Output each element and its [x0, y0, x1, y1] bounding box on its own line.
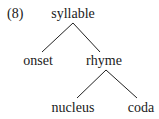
edge-rhyme-coda	[106, 70, 137, 98]
edge-syllable-onset	[42, 23, 73, 52]
edge-rhyme-nucleus	[77, 70, 106, 98]
node-nucleus: nucleus	[52, 100, 95, 116]
node-rhyme: rhyme	[86, 53, 122, 69]
node-syllable: syllable	[51, 6, 95, 22]
node-onset: onset	[23, 53, 53, 69]
edge-syllable-rhyme	[73, 23, 100, 52]
node-coda: coda	[128, 100, 154, 116]
